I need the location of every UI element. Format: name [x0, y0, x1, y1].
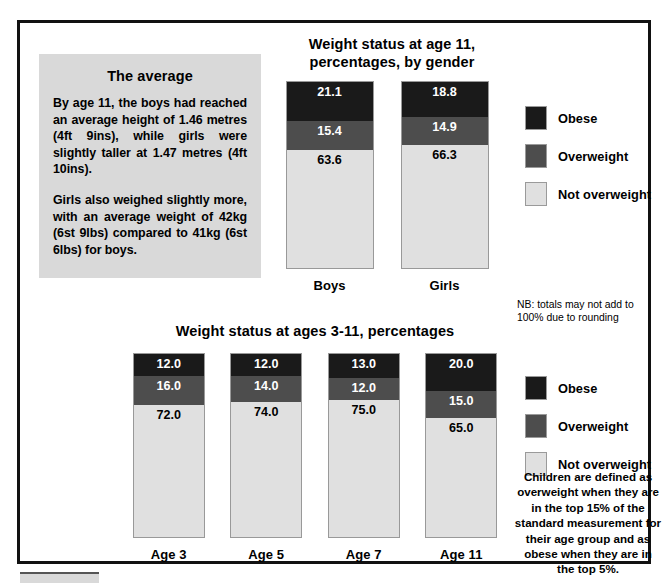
legend-item-overweight: Overweight	[525, 407, 651, 445]
bar-label-age-3: Age 3	[151, 547, 187, 562]
legend-item-overweight: Overweight	[525, 137, 651, 175]
bar-segment-obese: 13.0	[329, 354, 399, 378]
legend-item-not-overweight: Not overweight	[525, 175, 651, 213]
average-box-paragraph-2: Girls also weighed slightly more, with a…	[53, 192, 247, 258]
bar-label-boys: Boys	[313, 278, 345, 293]
bar-segment-overweight: 15.0	[426, 391, 496, 418]
average-box-paragraph-1: By age 11, the boys had reached an avera…	[53, 95, 247, 178]
legend-label-obese: Obese	[558, 381, 597, 396]
bar-segment-not-overweight: 72.0	[134, 405, 204, 537]
bar-group-age-11: 20.0 15.0 65.0 Age 11	[425, 353, 497, 562]
ages-stacked-bar-chart: 12.0 16.0 72.0 Age 3 12.0 14.0 74.0 Age …	[120, 353, 510, 568]
bar-segment-not-overweight: 66.3	[402, 145, 488, 268]
bar-segment-obese: 12.0	[134, 354, 204, 376]
stacked-bar-boys: 21.1 15.4 63.6	[286, 81, 374, 269]
average-info-box: The average By age 11, the boys had reac…	[39, 54, 261, 278]
top-chart-title: Weight status at age 11, percentages, by…	[272, 35, 512, 71]
cropped-bottom-fragment	[20, 572, 99, 583]
bar-segment-not-overweight: 74.0	[231, 402, 301, 537]
legend-label-not-overweight: Not overweight	[558, 187, 651, 202]
bar-label-age-7: Age 7	[346, 547, 382, 562]
bar-group-boys: 21.1 15.4 63.6 Boys	[286, 81, 374, 293]
bar-group-girls: 18.8 14.9 66.3 Girls	[401, 81, 489, 293]
legend-label-obese: Obese	[558, 111, 597, 126]
bar-segment-obese: 18.8	[402, 82, 488, 117]
stacked-bar-age-11: 20.0 15.0 65.0	[425, 353, 497, 538]
bottom-chart-legend: Obese Overweight Not overweight	[525, 369, 651, 483]
bar-group-age-5: 12.0 14.0 74.0 Age 5	[230, 353, 302, 562]
legend-swatch-obese-icon	[525, 376, 547, 400]
stacked-bar-age-5: 12.0 14.0 74.0	[230, 353, 302, 538]
bar-segment-overweight: 12.0	[329, 378, 399, 400]
stacked-bar-age-3: 12.0 16.0 72.0	[133, 353, 205, 538]
infographic-frame: The average By age 11, the boys had reac…	[17, 20, 651, 564]
bar-segment-not-overweight: 63.6	[287, 150, 373, 268]
bottom-chart-bars: 12.0 16.0 72.0 Age 3 12.0 14.0 74.0 Age …	[120, 353, 510, 538]
bar-segment-overweight: 15.4	[287, 121, 373, 150]
bar-segment-overweight: 14.0	[231, 376, 301, 402]
bar-segment-overweight: 14.9	[402, 117, 488, 145]
legend-item-obese: Obese	[525, 99, 651, 137]
legend-label-overweight: Overweight	[558, 149, 628, 164]
bar-segment-not-overweight: 75.0	[329, 400, 399, 537]
top-chart-bars: 21.1 15.4 63.6 Boys 18.8 14.9 66.3 Girls	[272, 81, 502, 269]
legend-item-obese: Obese	[525, 369, 651, 407]
bar-segment-obese: 20.0	[426, 354, 496, 391]
rounding-note: NB: totals may not add to 100% due to ro…	[517, 298, 657, 324]
bottom-chart-title: Weight status at ages 3-11, percentages	[120, 322, 510, 340]
bar-group-age-7: 13.0 12.0 75.0 Age 7	[328, 353, 400, 562]
legend-label-overweight: Overweight	[558, 419, 628, 434]
average-box-title: The average	[53, 68, 247, 84]
bar-label-girls: Girls	[429, 278, 459, 293]
gender-stacked-bar-chart: 21.1 15.4 63.6 Boys 18.8 14.9 66.3 Girls	[272, 81, 502, 301]
bar-group-age-3: 12.0 16.0 72.0 Age 3	[133, 353, 205, 562]
bar-label-age-11: Age 11	[440, 547, 483, 562]
bar-segment-obese: 12.0	[231, 354, 301, 376]
stacked-bar-age-7: 13.0 12.0 75.0	[328, 353, 400, 538]
top-chart-legend: Obese Overweight Not overweight	[525, 99, 651, 213]
stacked-bar-girls: 18.8 14.9 66.3	[401, 81, 489, 269]
legend-swatch-obese-icon	[525, 106, 547, 130]
legend-swatch-overweight-icon	[525, 414, 547, 438]
legend-swatch-not-overweight-icon	[525, 182, 547, 206]
bar-segment-obese: 21.1	[287, 82, 373, 121]
legend-swatch-overweight-icon	[525, 144, 547, 168]
bar-label-age-5: Age 5	[248, 547, 284, 562]
bar-segment-overweight: 16.0	[134, 376, 204, 405]
bar-segment-not-overweight: 65.0	[426, 418, 496, 537]
definition-note: Children are defined as overweight when …	[514, 469, 662, 577]
